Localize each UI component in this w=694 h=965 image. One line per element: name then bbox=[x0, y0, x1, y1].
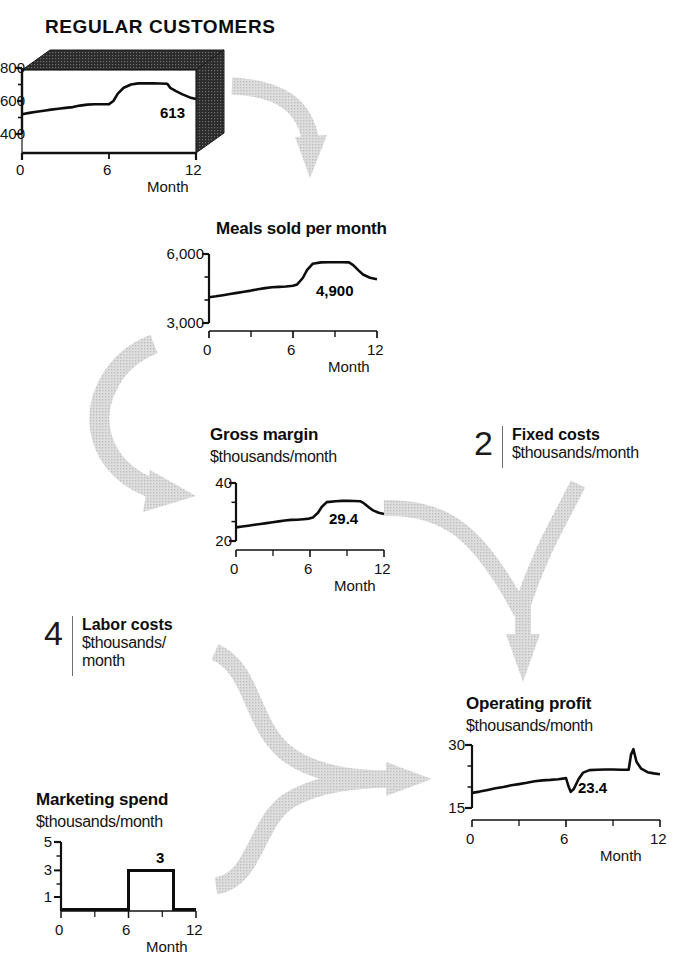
ytick-regular-customers-600: 600 bbox=[0, 92, 16, 109]
xtick-meals-12: 12 bbox=[367, 341, 384, 358]
ytick-operating-profit-15: 15 bbox=[440, 799, 465, 816]
factor-divider-fixed-costs bbox=[502, 426, 503, 468]
xtick-marketing-6: 6 bbox=[122, 921, 130, 938]
value-note-gross-margin: 29.4 bbox=[329, 510, 358, 527]
xtick-operating-profit-0: 0 bbox=[466, 830, 474, 847]
xtick-gross-margin-0: 0 bbox=[230, 560, 238, 577]
chart-operating-profit-plot bbox=[465, 745, 660, 827]
chart-subtitle-marketing-spend: $thousands/month bbox=[36, 813, 163, 831]
value-note-regular-customers: 613 bbox=[160, 104, 185, 121]
xtick-gross-margin-6: 6 bbox=[304, 560, 312, 577]
xlabel-operating-profit: Month bbox=[600, 847, 642, 864]
xtick-regular-customers-0: 0 bbox=[16, 161, 24, 178]
xlabel-meals: Month bbox=[328, 358, 370, 375]
ytick-marketing-5: 5 bbox=[38, 833, 52, 850]
factor-divider-labor-costs bbox=[72, 616, 73, 676]
chart-gross-margin-plot bbox=[229, 483, 384, 557]
value-note-operating-profit: 23.4 bbox=[578, 779, 607, 796]
ytick-marketing-1: 1 bbox=[38, 888, 52, 905]
factor-subtitle-labor-costs-line2: month bbox=[82, 652, 173, 670]
chart-title-operating-profit: Operating profit bbox=[466, 694, 591, 714]
chart-title-marketing-spend: Marketing spend bbox=[36, 790, 168, 810]
factor-subtitle-labor-costs-line1: $thousands/ bbox=[82, 634, 173, 652]
factor-subtitle-fixed-costs: $thousands/month bbox=[512, 444, 639, 462]
factor-title-labor-costs: Labor costs bbox=[82, 616, 173, 634]
ytick-regular-customers-800: 800 bbox=[0, 59, 16, 76]
ytick-marketing-3: 3 bbox=[38, 861, 52, 878]
chart-subtitle-operating-profit: $thousands/month bbox=[466, 717, 593, 735]
factor-title-fixed-costs: Fixed costs bbox=[512, 426, 639, 444]
value-note-marketing: 3 bbox=[156, 849, 164, 866]
ytick-regular-customers-400: 400 bbox=[0, 125, 16, 142]
factor-number-labor-costs: 4 bbox=[44, 616, 63, 650]
arrow-customers-to-meals bbox=[232, 86, 327, 178]
ytick-meals-3000: 3,000 bbox=[155, 314, 204, 331]
factor-fixed-costs: 2 Fixed costs $thousands/month bbox=[474, 426, 639, 468]
arrow-meals-to-gross-margin bbox=[99, 344, 196, 512]
arrow-merge-to-operating-profit-left bbox=[215, 652, 432, 886]
arrow-merge-to-operating-profit-top bbox=[384, 484, 578, 682]
xtick-regular-customers-6: 6 bbox=[103, 161, 111, 178]
xtick-regular-customers-12: 12 bbox=[185, 161, 202, 178]
ytick-meals-6000: 6,000 bbox=[155, 245, 204, 262]
chart-title-regular-customers: REGULAR CUSTOMERS bbox=[45, 16, 275, 38]
chart-title-gross-margin: Gross margin bbox=[210, 425, 318, 445]
chart-subtitle-gross-margin: $thousands/month bbox=[210, 448, 337, 466]
value-note-meals: 4,900 bbox=[316, 282, 354, 299]
ytick-gross-margin-40: 40 bbox=[209, 474, 232, 491]
factor-number-fixed-costs: 2 bbox=[474, 426, 493, 460]
xtick-operating-profit-6: 6 bbox=[560, 830, 568, 847]
xlabel-gross-margin: Month bbox=[334, 577, 376, 594]
xtick-operating-profit-12: 12 bbox=[650, 830, 667, 847]
chart-title-meals-sold: Meals sold per month bbox=[216, 219, 387, 239]
ytick-gross-margin-20: 20 bbox=[209, 532, 232, 549]
factor-labor-costs: 4 Labor costs $thousands/ month bbox=[44, 616, 173, 676]
xtick-meals-6: 6 bbox=[287, 341, 295, 358]
xlabel-regular-customers: Month bbox=[147, 178, 189, 195]
xtick-marketing-12: 12 bbox=[186, 921, 203, 938]
chart-regular-customers-plot bbox=[15, 50, 224, 160]
xtick-meals-0: 0 bbox=[203, 341, 211, 358]
xtick-gross-margin-12: 12 bbox=[374, 560, 391, 577]
chart-marketing-spend-plot bbox=[54, 842, 196, 918]
xlabel-marketing: Month bbox=[146, 938, 188, 955]
xtick-marketing-0: 0 bbox=[55, 921, 63, 938]
ytick-operating-profit-30: 30 bbox=[440, 736, 465, 753]
